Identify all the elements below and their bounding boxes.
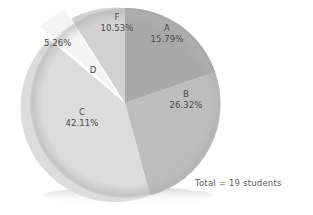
total-caption: Total = 19 students xyxy=(195,178,282,188)
pie-rim-shading xyxy=(30,8,220,198)
pie-label-d-value: 5.26% xyxy=(44,38,72,48)
pie-chart: A 15.79% B 26.32% C 42.11% D 5.26% F 10.… xyxy=(0,0,313,215)
